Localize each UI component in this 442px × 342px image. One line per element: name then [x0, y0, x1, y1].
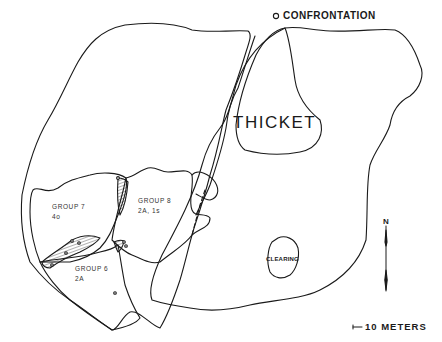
confrontation-marker-icon [273, 13, 278, 18]
group-composition: 2A, 1s [138, 206, 171, 216]
range-map [0, 0, 442, 342]
thicket-outline [236, 28, 321, 154]
clearing-label: CLEARING [266, 256, 299, 262]
group-7-label: GROUP 7 4o [52, 202, 85, 222]
north-label: N [383, 217, 389, 226]
group-name: GROUP 7 [52, 202, 85, 212]
group-composition: 4o [52, 212, 85, 222]
north-arrow-icon [385, 226, 387, 291]
sighting-marker [51, 264, 54, 267]
sighting-marker [65, 252, 68, 255]
scale-label: 10 METERS [365, 321, 427, 332]
group-8-label: GROUP 8 2A, 1s [138, 196, 171, 216]
west-range-outline [21, 23, 250, 330]
sighting-marker [114, 292, 117, 295]
sighting-marker [125, 245, 128, 248]
confrontation-label: CONFRONTATION [283, 10, 376, 21]
sighting-marker [117, 177, 120, 180]
scale-bar-icon [353, 325, 362, 329]
group-6-label: GROUP 6 2A [75, 264, 108, 284]
sighting-marker [123, 241, 126, 244]
group-composition: 2A [75, 274, 108, 284]
group-name: GROUP 8 [138, 196, 171, 206]
hatched-contact-zone-north [118, 178, 128, 215]
sighting-marker [78, 242, 81, 245]
sighting-marker [71, 240, 74, 243]
east-range-outline [151, 27, 422, 310]
thicket-label: THICKET [233, 113, 316, 133]
group-name: GROUP 6 [75, 264, 108, 274]
